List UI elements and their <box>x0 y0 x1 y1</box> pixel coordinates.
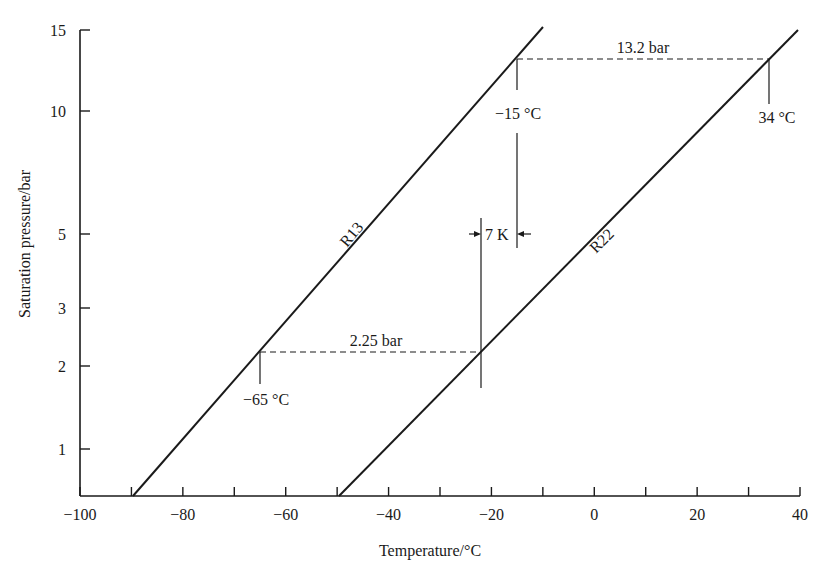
x-tick-label: 20 <box>689 506 705 523</box>
x-tick-label: −100 <box>63 506 96 523</box>
x-axis-title: Temperature/°C <box>379 542 481 560</box>
arrow-right-icon <box>474 231 481 237</box>
x-tick-label: 0 <box>590 506 598 523</box>
y-tick-label: 3 <box>58 300 66 317</box>
series-label-r22: R22 <box>586 225 617 256</box>
x-tick-label: −20 <box>479 506 504 523</box>
y-tick-label: 2 <box>58 358 66 375</box>
label-minus65c: −65 °C <box>243 391 289 408</box>
series-line-r22 <box>339 30 798 496</box>
series-label-r13: R13 <box>336 219 366 250</box>
x-tick-label: −40 <box>376 506 401 523</box>
label-13-2-bar: 13.2 bar <box>617 39 670 56</box>
y-tick-label: 1 <box>58 441 66 458</box>
annotations: 13.2 bar −15 °C 34 °C 7 K 2.25 bar −65 °… <box>243 39 796 408</box>
chart: −100−80−60−40−200204012351015 13.2 bar −… <box>0 0 826 574</box>
x-tick-label: 40 <box>792 506 808 523</box>
label-7k: 7 K <box>485 226 509 243</box>
label-2-25-bar: 2.25 bar <box>350 332 403 349</box>
arrow-left-icon <box>517 231 524 237</box>
y-tick-label: 10 <box>50 103 66 120</box>
y-tick-label: 5 <box>58 226 66 243</box>
y-tick-label: 15 <box>50 22 66 39</box>
x-tick-label: −80 <box>170 506 195 523</box>
series-lines <box>133 27 798 496</box>
label-34c: 34 °C <box>758 109 795 126</box>
label-minus15c: −15 °C <box>495 105 541 122</box>
x-tick-label: −60 <box>273 506 298 523</box>
y-axis-title: Saturation pressure/bar <box>16 169 34 318</box>
axes: −100−80−60−40−200204012351015 <box>50 22 808 523</box>
